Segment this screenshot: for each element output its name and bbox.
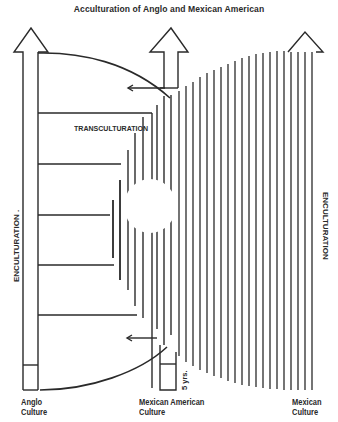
transculturation-label: TRANSCULTURATION <box>74 124 148 134</box>
mexican-american-culture-line1: Mexican American <box>139 397 204 407</box>
mexican-culture-line2: Culture <box>292 407 322 417</box>
anglo-culture-label: Anglo Culture <box>21 397 47 417</box>
mexican-culture-line1: Mexican <box>292 397 322 407</box>
mexican-american-culture-label: Mexican American Culture <box>139 397 204 417</box>
enculturation-right-label: ENCULTURATION <box>321 192 330 260</box>
anglo-culture-line1: Anglo <box>21 397 47 407</box>
five-years-label: 5 yrs. <box>180 370 189 390</box>
enculturation-left-label: ENCULTURATION . <box>12 210 21 282</box>
acculturation-diagram <box>0 0 338 422</box>
mexican-up-arrow-icon <box>288 32 323 52</box>
circular-gap <box>124 179 176 233</box>
anglo-culture-line2: Culture <box>21 407 47 417</box>
mexican-vertical-lines <box>179 51 312 390</box>
mexican-american-culture-line2: Culture <box>139 407 204 417</box>
mexican-culture-label: Mexican Culture <box>292 397 322 417</box>
